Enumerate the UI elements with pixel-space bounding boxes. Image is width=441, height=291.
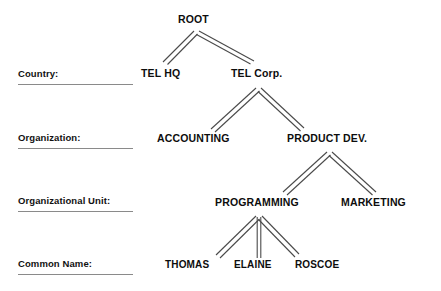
row-label-common-name-rule <box>18 274 133 275</box>
tree-node-tel-corp[interactable]: TEL Corp. <box>231 67 282 79</box>
row-label-organization-rule <box>18 148 133 149</box>
row-label-organizational-unit-rule <box>18 211 133 212</box>
row-label-organizational-unit: Organizational Unit: <box>18 195 133 212</box>
tree-node-elaine[interactable]: ELAINE <box>234 259 272 271</box>
row-label-country-rule <box>18 84 133 85</box>
edge-product-dev-to-marketing <box>329 152 376 195</box>
row-label-country-text: Country: <box>18 68 133 79</box>
edge-product-dev-to-programming <box>283 152 331 195</box>
tree-node-tel-hq[interactable]: TEL HQ <box>141 67 180 79</box>
edge-root-to-tel-hq <box>163 31 198 65</box>
tree-node-accounting[interactable]: ACCOUNTING <box>157 132 230 144</box>
tree-node-product-dev[interactable]: PRODUCT DEV. <box>287 132 367 144</box>
row-label-organizational-unit-text: Organizational Unit: <box>18 195 133 206</box>
edge-programming-to-elaine <box>257 217 261 258</box>
tree-node-roscoe[interactable]: ROSCOE <box>295 259 339 271</box>
edge-tel-corp-to-accounting <box>211 88 260 132</box>
edge-root-to-tel-corp <box>197 31 255 64</box>
edge-programming-to-roscoe <box>259 216 300 257</box>
tree-node-marketing[interactable]: MARKETING <box>341 196 406 208</box>
tree-node-programming[interactable]: PROGRAMMING <box>215 196 299 208</box>
edge-programming-to-thomas <box>216 216 260 258</box>
row-label-common-name-text: Common Name: <box>18 258 133 269</box>
tree-node-thomas[interactable]: THOMAS <box>165 259 209 271</box>
row-label-common-name: Common Name: <box>18 258 133 275</box>
row-label-organization-text: Organization: <box>18 132 133 143</box>
tree-node-root[interactable]: ROOT <box>178 13 209 25</box>
edge-tel-corp-to-product-dev <box>258 88 304 131</box>
row-label-organization: Organization: <box>18 132 133 149</box>
directory-tree-diagram: Country: Organization: Organizational Un… <box>0 0 441 291</box>
row-label-country: Country: <box>18 68 133 85</box>
